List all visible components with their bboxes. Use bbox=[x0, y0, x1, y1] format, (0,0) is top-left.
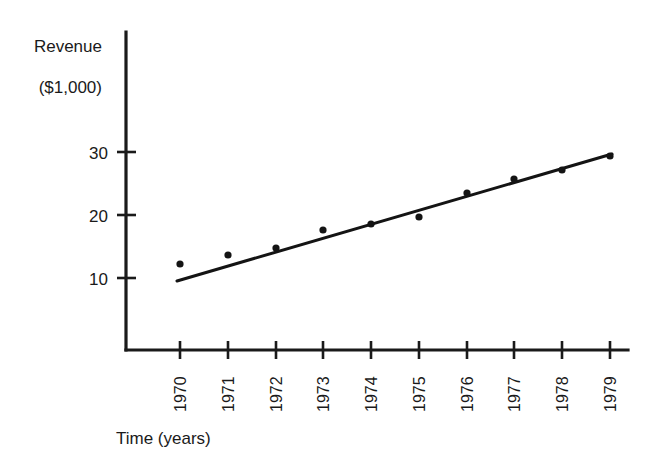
chart-page: Revenue ($1,000) 30 20 10 1970 1971 1972… bbox=[0, 0, 652, 457]
y-axis-title-line1: Revenue bbox=[34, 37, 102, 56]
data-point-1978 bbox=[558, 166, 565, 173]
x-tick-label-1973: 1973 bbox=[315, 376, 332, 412]
data-point-1973 bbox=[319, 226, 326, 233]
revenue-vs-time-scatter-chart: Revenue ($1,000) 30 20 10 1970 1971 1972… bbox=[0, 0, 652, 457]
x-tick-label-1979: 1979 bbox=[602, 376, 619, 412]
data-point-1976 bbox=[463, 189, 470, 196]
x-tick-label-1977: 1977 bbox=[506, 376, 523, 412]
data-point-1975 bbox=[415, 213, 422, 220]
data-point-1979 bbox=[606, 152, 613, 159]
data-point-1972 bbox=[272, 244, 279, 251]
x-tick-label-1972: 1972 bbox=[268, 376, 285, 412]
data-point-1971 bbox=[224, 251, 231, 258]
data-point-1974 bbox=[367, 220, 374, 227]
x-tick-label-1971: 1971 bbox=[220, 376, 237, 412]
y-tick-label-10: 10 bbox=[89, 270, 108, 289]
x-tick-label-1975: 1975 bbox=[411, 376, 428, 412]
y-axis-title-line2: ($1,000) bbox=[39, 78, 102, 97]
data-point-1970 bbox=[176, 260, 183, 267]
x-tick-label-1978: 1978 bbox=[554, 376, 571, 412]
y-tick-label-30: 30 bbox=[89, 144, 108, 163]
x-tick-label-1976: 1976 bbox=[459, 376, 476, 412]
x-tick-label-1970: 1970 bbox=[172, 376, 189, 412]
x-axis-title: Time (years) bbox=[116, 429, 211, 448]
y-tick-label-20: 20 bbox=[89, 207, 108, 226]
x-tick-label-1974: 1974 bbox=[363, 376, 380, 412]
data-point-1977 bbox=[510, 175, 517, 182]
